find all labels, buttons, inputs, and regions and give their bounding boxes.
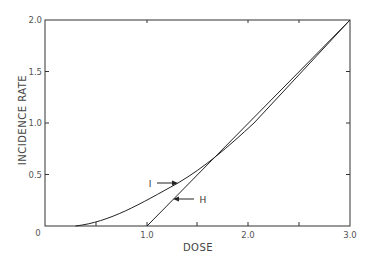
y-tick-label-1.5: 1.5 — [28, 67, 42, 77]
x-tick-label-3: 3.0 — [343, 230, 357, 240]
line-h — [147, 20, 350, 226]
y-axis-ticks — [45, 72, 350, 175]
x-tick-label-1: 1.0 — [140, 230, 154, 240]
x-axis-title: DOSE — [183, 242, 213, 253]
annotation-h: H — [173, 195, 206, 205]
dose-response-chart: 0 1.0 2.0 3.0 0.5 1.0 1.5 2.0 DOSE INCID… — [0, 0, 375, 256]
x-tick-label-0: 0 — [35, 228, 40, 238]
x-tick-label-2: 2.0 — [241, 230, 255, 240]
y-tick-label-1.0: 1.0 — [28, 118, 42, 128]
y-tick-label-2.0: 2.0 — [28, 15, 42, 25]
plot-frame — [45, 20, 350, 226]
x-axis-ticks — [96, 20, 299, 226]
curve-i — [76, 20, 351, 226]
y-axis-title: INCIDENCE RATE — [17, 75, 28, 165]
curve-h-label: H — [200, 195, 207, 205]
annotation-i: I — [149, 179, 178, 189]
y-tick-label-0.5: 0.5 — [28, 170, 42, 180]
curve-i-label: I — [149, 179, 152, 189]
